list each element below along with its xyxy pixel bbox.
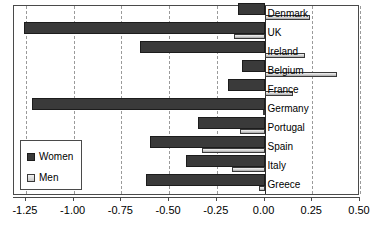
x-tick [120, 197, 121, 201]
x-tick-label: -0.50 [156, 204, 181, 216]
category-label-spain: Spain [265, 141, 294, 152]
category-label-germany: Germany [265, 103, 309, 114]
x-tick-label: 0.00 [253, 204, 274, 216]
x-axis-line [13, 197, 359, 198]
x-tick-label: -0.75 [108, 204, 133, 216]
bar-men-uk [234, 34, 265, 39]
bar-men-portugal [240, 129, 265, 134]
bar-women-france [228, 79, 264, 91]
chart-legend: Women Men [20, 140, 82, 190]
bar-women-italy [186, 155, 264, 167]
x-tick [25, 197, 26, 201]
category-label-uk: UK [265, 27, 282, 38]
legend-swatch-women-icon [27, 153, 35, 161]
bar-women-spain [150, 136, 265, 148]
x-tick [264, 197, 265, 201]
gridline [360, 6, 361, 194]
legend-item-women: Women [27, 151, 73, 162]
category-label-ireland: Ireland [265, 46, 299, 57]
category-label-greece: Greece [265, 179, 301, 190]
bar-women-germany [32, 98, 265, 110]
bar-women-portugal [198, 117, 265, 129]
x-tick [311, 197, 312, 201]
x-tick [168, 197, 169, 201]
bar-women-belgium [242, 60, 265, 72]
bar-men-italy [232, 167, 264, 172]
legend-swatch-men-icon [27, 174, 35, 182]
legend-item-men: Men [27, 172, 58, 183]
bar-group [14, 63, 358, 82]
category-label-italy: Italy [265, 160, 286, 171]
category-label-denmark: Denmark [265, 8, 309, 19]
category-label-portugal: Portugal [265, 122, 305, 133]
x-tick-label: -1.25 [12, 204, 37, 216]
x-tick [359, 197, 360, 201]
bar-women-uk [24, 22, 265, 34]
bar-women-ireland [140, 41, 264, 53]
legend-label-women: Women [39, 151, 73, 162]
x-tick [73, 197, 74, 201]
x-tick-label: -1.00 [60, 204, 85, 216]
x-tick-label: -0.25 [203, 204, 228, 216]
category-label-belgium: Belgium [265, 65, 304, 76]
x-tick-label: 0.50 [348, 204, 369, 216]
bar-women-greece [146, 174, 264, 186]
bar-men-spain [202, 148, 265, 153]
bar-group [14, 44, 358, 63]
x-tick [216, 197, 217, 201]
legend-label-men: Men [39, 172, 58, 183]
bar-women-denmark [238, 3, 265, 15]
category-label-france: France [265, 84, 299, 95]
x-tick-label: 0.25 [301, 204, 322, 216]
